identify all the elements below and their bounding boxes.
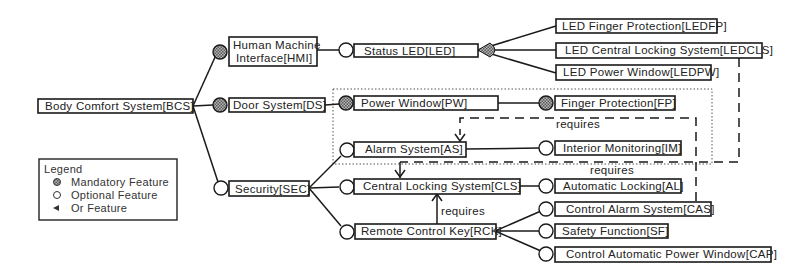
feature-label: Interior Monitoring[IM] bbox=[563, 142, 682, 154]
mandatory-icon bbox=[54, 179, 61, 186]
feature-ds[interactable]: Door System[DS] bbox=[213, 98, 326, 112]
feature-label: Finger Protection[FP] bbox=[561, 97, 676, 109]
feature-label: Door System[DS] bbox=[233, 99, 326, 111]
feature-label: Remote Control Key[RCK] bbox=[361, 225, 502, 237]
mandatory-icon bbox=[213, 98, 227, 112]
feature-bcs[interactable]: Body Comfort System[BCS] bbox=[38, 99, 194, 113]
feature-pw[interactable]: Power Window[PW] bbox=[339, 96, 498, 110]
feature-label: Control Alarm System[CAS] bbox=[566, 203, 715, 215]
feature-ledcls[interactable]: LED Central Locking System[LEDCLS] bbox=[556, 43, 773, 58]
optional-icon bbox=[539, 224, 553, 238]
or-group-icon bbox=[478, 43, 495, 57]
optional-icon bbox=[340, 225, 354, 239]
feature-label: Power Window[PW] bbox=[361, 97, 467, 109]
feature-label: LED Power Window[LEDPW] bbox=[563, 66, 719, 78]
optional-icon bbox=[339, 43, 353, 57]
optional-icon bbox=[539, 141, 553, 155]
requires-label: requires bbox=[590, 164, 634, 176]
feature-label: Body Comfort System[BCS] bbox=[45, 100, 194, 112]
optional-icon bbox=[340, 180, 354, 194]
feature-ledpw[interactable]: LED Power Window[LEDPW] bbox=[556, 65, 719, 80]
feature-label: Control Automatic Power Window[CAP] bbox=[566, 248, 777, 260]
legend-item-label: Or Feature bbox=[71, 202, 127, 214]
feature-ledfp[interactable]: LED Finger Protection[LEDFP] bbox=[556, 19, 727, 33]
feature-cls[interactable]: Central Locking System[CLS] bbox=[340, 179, 521, 194]
feature-as[interactable]: Alarm System[AS] bbox=[340, 142, 466, 157]
optional-icon bbox=[539, 202, 553, 216]
feature-label-line2: Interface[HMI] bbox=[236, 52, 312, 64]
legend-title: Legend bbox=[44, 163, 83, 175]
feature-al[interactable]: Automatic Locking[AL] bbox=[539, 179, 684, 193]
optional-icon bbox=[539, 179, 553, 193]
feature-rck[interactable]: Remote Control Key[RCK] bbox=[340, 224, 502, 239]
feature-label: LED Finger Protection[LEDFP] bbox=[562, 20, 727, 32]
requires-label: requires bbox=[556, 118, 600, 130]
optional-icon bbox=[54, 192, 61, 199]
feature-label-line1: Human Machine bbox=[233, 39, 321, 51]
optional-icon bbox=[340, 143, 354, 157]
feature-label: Automatic Locking[AL] bbox=[563, 180, 684, 192]
legend: Legend Mandatory Feature Optional Featur… bbox=[39, 159, 177, 220]
mandatory-icon bbox=[539, 96, 553, 110]
feature-cap[interactable]: Control Automatic Power Window[CAP] bbox=[539, 247, 777, 262]
feature-label: Security[SEC] bbox=[235, 183, 310, 195]
legend-item-label: Optional Feature bbox=[71, 189, 158, 201]
feature-hmi[interactable]: Human Machine Interface[HMI] bbox=[213, 37, 321, 66]
feature-model-diagram: requires requires requires Body Comfort … bbox=[0, 0, 802, 278]
mandatory-icon bbox=[339, 96, 353, 110]
feature-label: Status LED[LED] bbox=[364, 45, 455, 57]
feature-sf[interactable]: Safety Function[SF] bbox=[539, 224, 669, 238]
feature-label: Alarm System[AS] bbox=[365, 143, 463, 155]
mandatory-icon bbox=[213, 45, 227, 59]
requires-constraint-rck-cls: requires bbox=[432, 194, 485, 224]
feature-cas[interactable]: Control Alarm System[CAS] bbox=[539, 202, 715, 216]
feature-label: LED Central Locking System[LEDCLS] bbox=[565, 44, 773, 56]
feature-led[interactable]: Status LED[LED] bbox=[339, 43, 478, 57]
optional-icon bbox=[539, 247, 553, 261]
requires-label: requires bbox=[441, 205, 485, 217]
feature-im[interactable]: Interior Monitoring[IM] bbox=[539, 141, 682, 155]
feature-label: Safety Function[SF] bbox=[562, 225, 669, 237]
feature-fp[interactable]: Finger Protection[FP] bbox=[539, 96, 676, 110]
feature-label: Central Locking System[CLS] bbox=[363, 180, 521, 192]
optional-icon bbox=[214, 181, 228, 195]
feature-sec[interactable]: Security[SEC] bbox=[214, 181, 310, 196]
legend-item-label: Mandatory Feature bbox=[71, 176, 169, 188]
